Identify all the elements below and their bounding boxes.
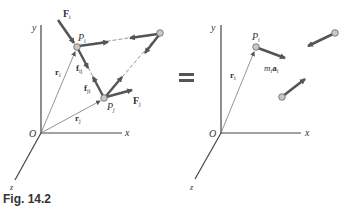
position-vector-ri [41, 52, 75, 133]
figure-caption: Fig. 14.2 [3, 192, 51, 206]
origin-label: O [29, 128, 36, 139]
force-fij [78, 49, 88, 68]
z-axis-label: z [189, 183, 194, 192]
effective-force-k [308, 34, 333, 46]
equals-sign [179, 73, 194, 82]
ri-label: ri [230, 70, 236, 81]
Fj-label: Fj [133, 95, 141, 107]
Fi-label: Fi [63, 8, 71, 20]
y-axis-label: y [210, 22, 216, 33]
force-fji [93, 77, 103, 96]
rj-label: rj [75, 113, 81, 124]
external-force-Fi [58, 20, 74, 43]
effective-force-j [283, 79, 305, 96]
x-axis-label: x [304, 127, 310, 138]
particle-pj [279, 94, 286, 101]
force-k-to-i [130, 34, 158, 38]
fji-label: fji [84, 83, 91, 94]
Pi-label: Pi [251, 31, 260, 43]
ri-label: ri [55, 67, 61, 78]
force-k-to-j [145, 35, 159, 53]
particle-system-diagram: y x z O Fi Pi Pj Fj fij fji ri rj y x z … [0, 0, 360, 209]
position-vector-ri [221, 52, 254, 133]
x-axis-label: x [124, 127, 130, 138]
fij-label: fij [76, 63, 83, 74]
left-diagram: y x z O Fi Pi Pj Fj fij fji ri rj [9, 8, 163, 192]
origin-label: O [209, 128, 216, 139]
z-axis [195, 133, 221, 179]
y-axis-label: y [31, 22, 37, 33]
right-diagram: y x z O Pi miai ri [189, 22, 338, 192]
miai-label: miai [264, 63, 279, 74]
Pj-label: Pj [106, 101, 115, 113]
particle-pi [74, 44, 81, 51]
particle-pk [157, 30, 164, 37]
position-vector-rj [41, 101, 100, 133]
effective-force-miai [258, 48, 285, 58]
particle-pi [253, 44, 260, 51]
z-axis [15, 133, 41, 180]
z-axis-label: z [9, 183, 14, 192]
particle-pk [332, 30, 339, 37]
Pi-label: Pi [77, 32, 86, 44]
